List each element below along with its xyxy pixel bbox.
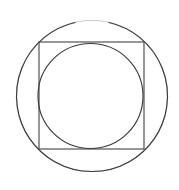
figure-canvas: Geometric line drawing A square inscribe…	[0, 0, 179, 190]
geometric-figure-svg	[0, 0, 179, 190]
inner-circle	[38, 44, 143, 149]
